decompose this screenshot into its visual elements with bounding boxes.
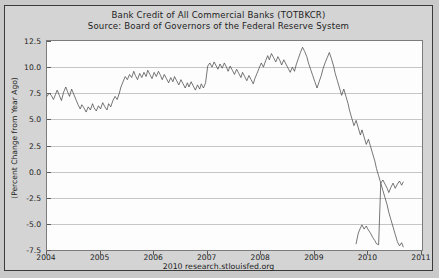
y-tick-mark (47, 224, 51, 225)
title-block: Bank Credit of All Commercial Banks (TOT… (5, 10, 432, 32)
chart-title: Bank Credit of All Commercial Banks (TOT… (5, 10, 432, 21)
data-line-totbkcr-tail (356, 180, 403, 245)
data-line-totbkcr (47, 47, 403, 247)
y-tick-label: -2.5 (7, 193, 41, 202)
y-tick-mark (47, 198, 51, 199)
chart-screenshot: Bank Credit of All Commercial Banks (TOT… (0, 0, 439, 278)
source-footer: 2010 research.stlouisfed.org (5, 262, 432, 271)
x-tick-label: 2009 (304, 253, 323, 262)
chart-subtitle: Source: Board of Governors of the Federa… (5, 21, 432, 32)
y-tick-label: 0.0 (7, 167, 41, 176)
x-tick-label: 2005 (90, 253, 109, 262)
x-tick-label: 2007 (197, 253, 216, 262)
series-layer (47, 41, 422, 250)
y-tick-label: 10.0 (7, 63, 41, 72)
y-tick-mark (47, 93, 51, 94)
y-tick-mark (47, 172, 51, 173)
y-tick-label: 5.0 (7, 115, 41, 124)
plot-area (46, 40, 423, 251)
series-svg (47, 41, 422, 250)
y-tick-mark (47, 146, 51, 147)
y-tick-label: -5.0 (7, 219, 41, 228)
y-tick-mark (47, 119, 51, 120)
y-tick-mark (47, 67, 51, 68)
x-tick-label: 2008 (251, 253, 270, 262)
figure-card: Bank Credit of All Commercial Banks (TOT… (4, 5, 433, 271)
y-tick-label: 2.5 (7, 141, 41, 150)
y-tick-label: 12.5 (7, 37, 41, 46)
y-tick-mark (47, 41, 51, 42)
x-tick-label: 2010 (358, 253, 377, 262)
y-tick-label: -7.5 (7, 246, 41, 255)
x-tick-label: 2006 (143, 253, 162, 262)
x-tick-label: 2011 (411, 253, 430, 262)
y-tick-label: 7.5 (7, 89, 41, 98)
